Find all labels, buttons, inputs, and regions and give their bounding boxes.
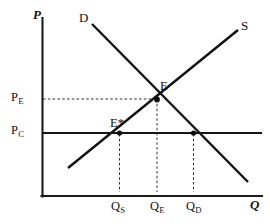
guide-lines-group: [43, 99, 194, 192]
quantity-demanded-point-dot: [191, 130, 196, 135]
quantity-supplied-point-dot: [117, 130, 122, 135]
tick-label-price-equilibrium: PE: [11, 91, 23, 104]
tick-sub-pe: E: [18, 96, 23, 106]
tick-base-qe: Q: [150, 199, 159, 213]
tick-base-pc: P: [11, 123, 18, 137]
axes-group: [42, 18, 263, 197]
demand-curve-label: D: [79, 11, 88, 24]
chart-canvas: [0, 0, 270, 224]
tick-base-qd: Q: [186, 199, 195, 213]
tick-label-price-ceiling: PC: [11, 124, 24, 137]
tick-label-quantity-equilibrium: QE: [150, 200, 164, 213]
tick-base-pe: P: [11, 90, 18, 104]
tick-sub-qe: E: [159, 205, 164, 215]
tick-base-qs: Q: [111, 199, 120, 213]
supply-demand-price-ceiling-diagram: P Q D S E E* PE PC QS QE QD: [0, 0, 270, 224]
ceiling-point-label: E*: [110, 117, 124, 130]
tick-sub-qs: S: [120, 205, 125, 215]
tick-label-quantity-supplied: QS: [111, 200, 125, 213]
equilibrium-point-label: E: [160, 80, 168, 93]
tick-label-quantity-demanded: QD: [186, 200, 201, 213]
y-axis-label: P: [33, 8, 41, 21]
equilibrium-point-dot: [154, 97, 160, 103]
tick-sub-qd: D: [195, 205, 201, 215]
x-axis-label: Q: [250, 198, 259, 211]
supply-curve-label: S: [241, 19, 248, 32]
tick-sub-pc: C: [18, 129, 24, 139]
demand-curve: [92, 24, 248, 182]
